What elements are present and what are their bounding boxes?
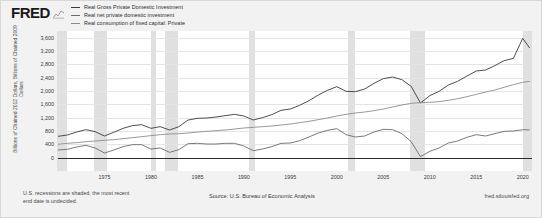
recession-note: U.S. recessions are shaded, the most rec…	[23, 189, 129, 205]
series-line-1	[58, 129, 530, 157]
series-line-2	[58, 81, 530, 144]
x-tick-label-7: 2010	[424, 174, 436, 180]
x-tick-label-8: 2015	[470, 174, 482, 180]
series-lines	[58, 31, 532, 171]
legend-item-label: Real net private domestic investment	[84, 12, 174, 19]
x-tick-label-9: 2020	[517, 174, 529, 180]
y-tick-label-0: 3,600	[41, 35, 55, 41]
source-note: Source: U.S. Bureau of Economic Analysis	[209, 193, 315, 199]
legend-swatch-icon	[71, 23, 80, 24]
legend-item-1[interactable]: Real net private domestic investment	[71, 12, 185, 19]
x-tick-label-0: 1975	[98, 174, 110, 180]
y-axis-title: Billions of Chained 2012 Dollars, Billio…	[12, 14, 24, 164]
series-line-0	[58, 38, 530, 136]
legend-item-label: Real Gross Private Domestic Investment	[84, 4, 183, 11]
recession-note-line1: U.S. recessions are shaded, the most rec…	[23, 189, 129, 197]
x-tick-label-1: 1980	[145, 174, 157, 180]
y-tick-label-4: 2,000	[41, 88, 55, 94]
x-tick-label-2: 1985	[191, 174, 203, 180]
y-tick-label-8: 400	[45, 141, 54, 147]
y-tick-label-7: 800	[45, 128, 54, 134]
y-tick-label-1: 3,200	[41, 48, 55, 54]
y-tick-label-3: 2,400	[41, 75, 55, 81]
x-tick-label-4: 1995	[284, 174, 296, 180]
y-tick-label-2: 2,800	[41, 61, 55, 67]
chart-footer: U.S. recessions are shaded, the most rec…	[1, 187, 542, 218]
y-tick-label-5: 1,600	[41, 101, 55, 107]
chart-area: Billions of Chained 2012 Dollars, Billio…	[1, 27, 542, 179]
chart-header: FRED Real Gross Private Domestic Investm…	[1, 1, 542, 29]
legend-item-label: Real consumption of fixed capital: Priva…	[84, 20, 185, 27]
y-axis-title-line2: Dollars	[18, 14, 24, 164]
y-tick-label-9: 0	[51, 155, 54, 161]
chart-legend: Real Gross Private Domestic InvestmentRe…	[71, 4, 185, 27]
legend-item-0[interactable]: Real Gross Private Domestic Investment	[71, 4, 185, 11]
plot-area[interactable]: 3,6003,2002,8002,4002,0001,6001,20080040…	[57, 31, 531, 171]
legend-swatch-icon	[71, 15, 80, 16]
y-tick-label-6: 1,200	[41, 115, 55, 121]
fred-chart-widget: FRED Real Gross Private Domestic Investm…	[0, 0, 542, 218]
x-tick-label-5: 2000	[331, 174, 343, 180]
legend-item-2[interactable]: Real consumption of fixed capital: Priva…	[71, 20, 185, 27]
fred-chart-mark-icon	[53, 10, 64, 19]
legend-swatch-icon	[71, 7, 80, 8]
recession-note-line2: end date is undecided.	[23, 197, 129, 205]
x-tick-label-3: 1990	[238, 174, 250, 180]
fred-url-link[interactable]: fred.stlouisfed.org	[485, 193, 529, 199]
x-tick-label-6: 2005	[377, 174, 389, 180]
